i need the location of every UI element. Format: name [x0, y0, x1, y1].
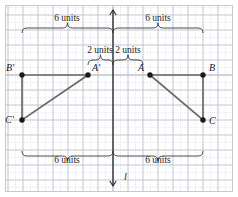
measure-label-inner-right-brace: 2 units — [115, 45, 141, 55]
point-labels: ABCA'B'C' — [5, 62, 216, 126]
vertex-label-C: C — [209, 115, 216, 126]
measure-label-inner-left-brace: 2 units — [87, 45, 113, 55]
vertex-point-B — [200, 72, 205, 77]
measure-label-bottom-left-brace: 6 units — [54, 155, 80, 165]
grid-major-lines — [6, 6, 232, 191]
mirror-line-l — [110, 10, 116, 186]
vertex-label-A-prime: A' — [91, 62, 101, 73]
vertex-point-C — [200, 117, 205, 122]
diagram-canvas: ABCA'B'C' 6 units6 units2 units2 units6 … — [0, 0, 238, 197]
geometry-figure: ABCA'B'C' 6 units6 units2 units2 units6 … — [0, 0, 238, 197]
vertex-label-C-prime: C' — [5, 114, 15, 125]
vertex-point-A-prime — [85, 72, 90, 77]
vertex-point-C-prime — [19, 117, 24, 122]
vertex-label-B: B — [209, 62, 215, 73]
vertex-label-A: A — [137, 62, 145, 73]
measure-label-bottom-right-brace: 6 units — [145, 155, 171, 165]
figure-border — [6, 6, 233, 192]
mirror-line-label: l — [124, 171, 127, 182]
vertex-point-B-prime — [19, 72, 24, 77]
grid-minor-lines — [6, 6, 232, 191]
vertex-label-B-prime: B' — [6, 62, 15, 73]
measure-label-top-right-brace: 6 units — [145, 13, 171, 23]
measure-label-top-left-brace: 6 units — [54, 13, 80, 23]
vertex-point-A — [147, 72, 152, 77]
top-left-brace — [22, 23, 113, 33]
